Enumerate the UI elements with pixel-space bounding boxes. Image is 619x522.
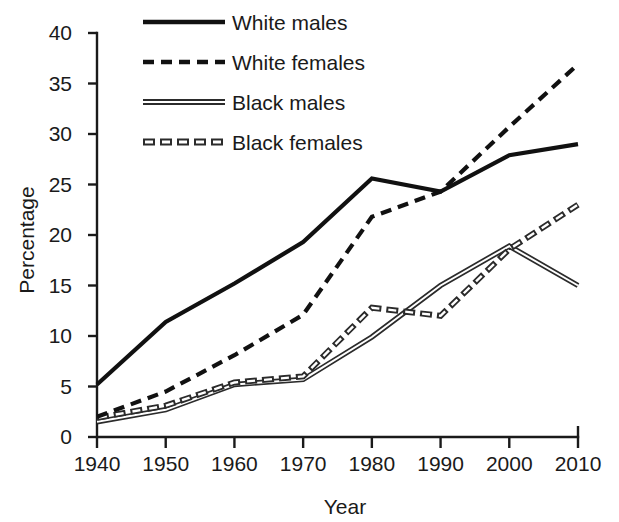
y-tick-label: 15 [49,274,72,297]
x-tick-label: 2010 [555,452,602,475]
x-tick-label: 1990 [417,452,464,475]
y-axis-title: Percentage [15,186,38,293]
chart-container: Percentage Year 0510152025303540 1940195… [0,0,619,522]
y-tick-label: 35 [49,72,72,95]
data-series-group [97,64,578,422]
y-tick-label: 25 [49,173,72,196]
series-line-black-males-outer [97,246,578,422]
y-tick-label: 10 [49,324,72,347]
y-tick-label: 30 [49,122,72,145]
x-tick-label: 1940 [74,452,121,475]
series-line-black-males-inner [97,246,578,422]
y-axis-title-text: Percentage [15,186,38,293]
y-tick-label: 40 [49,21,72,44]
line-chart: Percentage Year 0510152025303540 1940195… [0,0,619,522]
chart-legend: White malesWhite femalesBlack malesBlack… [143,11,365,154]
legend-item-label: Black females [232,131,363,154]
y-tick-label: 0 [60,425,72,448]
legend-item-label: White males [232,11,348,34]
x-tick-label: 1970 [280,452,327,475]
legend-item-label: White females [232,51,365,74]
y-tick-label: 20 [49,223,72,246]
x-tick-label: 1960 [211,452,258,475]
y-tick-label: 5 [60,375,72,398]
series-line-black-females-outer [97,205,578,418]
x-tick-label: 1980 [348,452,395,475]
x-tick-labels: 19401950196019701980199020002010 [74,452,602,475]
x-tick-label: 2000 [486,452,533,475]
y-tick-labels: 0510152025303540 [49,21,72,448]
x-tick-label: 1950 [142,452,189,475]
legend-item-label: Black males [232,91,345,114]
series-line-black-females-inner [97,205,578,418]
series-line-white-females [97,64,578,416]
x-axis-title-text: Year [324,495,366,518]
